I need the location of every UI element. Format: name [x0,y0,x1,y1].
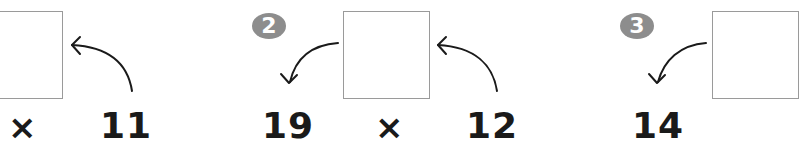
arrow-head-icon [649,74,665,83]
arrow-icon [438,45,497,91]
arrow-head-icon [281,74,297,83]
arrow-icon [72,45,132,91]
